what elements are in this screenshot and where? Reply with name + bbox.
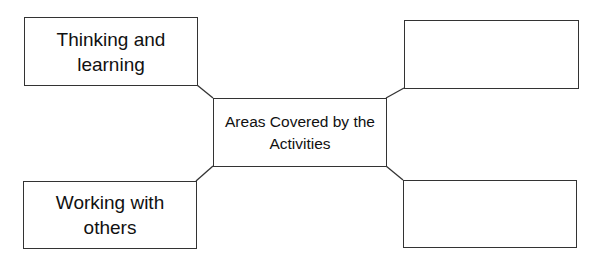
center-node: Areas Covered by the Activities (213, 98, 387, 167)
connector-bottom-left (196, 166, 213, 181)
node-top-left: Thinking and learning (24, 17, 198, 86)
node-bottom-left: Working with others (23, 181, 197, 249)
node-bottom-right[interactable] (403, 180, 577, 248)
node-top-right[interactable] (404, 20, 579, 89)
connector-top-right (386, 88, 404, 98)
center-label: Areas Covered by the Activities (225, 111, 375, 155)
node-label: Thinking and learning (51, 27, 171, 77)
connector-top-left (197, 85, 213, 98)
node-label: Working with others (40, 190, 180, 240)
connector-bottom-right (386, 166, 403, 180)
